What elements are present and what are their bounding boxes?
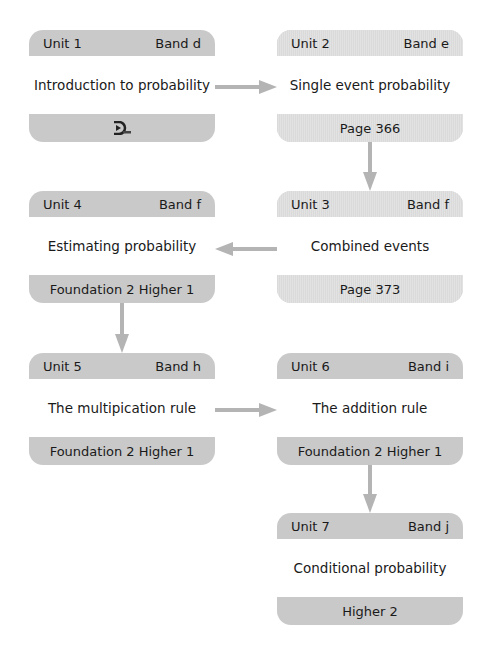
card-footer: Foundation 2 Higher 1: [277, 437, 463, 465]
card-header: Unit 1Band d: [29, 30, 215, 56]
arrow-right-icon: [215, 80, 277, 94]
dl-logo-icon: [112, 121, 132, 135]
card-header: Unit 5Band h: [29, 353, 215, 379]
card-header: Unit 6Band i: [277, 353, 463, 379]
unit-label: Unit 4: [43, 197, 82, 212]
unit-label: Unit 7: [291, 519, 330, 534]
unit-title: Introduction to probability: [29, 56, 215, 114]
band-label: Band i: [408, 359, 449, 374]
arrow-left-icon: [215, 242, 277, 256]
unit-title: Combined events: [277, 217, 463, 275]
arrow-down-icon: [363, 142, 377, 191]
band-label: Band d: [155, 36, 201, 51]
unit-label: Unit 3: [291, 197, 330, 212]
card-header: Unit 2Band e: [277, 30, 463, 56]
unit-title: Single event probability: [277, 56, 463, 114]
unit-label: Unit 5: [43, 359, 82, 374]
card-header: Unit 7Band j: [277, 513, 463, 539]
card-footer: Foundation 2 Higher 1: [29, 275, 215, 303]
card-header: Unit 4Band f: [29, 191, 215, 217]
card-footer: Higher 2: [277, 597, 463, 625]
unit-label: Unit 1: [43, 36, 82, 51]
band-label: Band f: [159, 197, 201, 212]
unit-card-1[interactable]: Unit 1Band d Introduction to probability: [29, 30, 215, 142]
unit-card-3[interactable]: Unit 3Band f Combined events Page 373: [277, 191, 463, 303]
card-footer: Page 366: [277, 114, 463, 142]
unit-title: The addition rule: [277, 379, 463, 437]
band-label: Band f: [407, 197, 449, 212]
unit-label: Unit 2: [291, 36, 330, 51]
band-label: Band e: [403, 36, 449, 51]
card-footer: [29, 114, 215, 142]
arrow-down-icon: [363, 465, 377, 513]
unit-card-5[interactable]: Unit 5Band h The multipication rule Foun…: [29, 353, 215, 465]
arrow-down-icon: [115, 303, 129, 353]
unit-card-6[interactable]: Unit 6Band i The addition rule Foundatio…: [277, 353, 463, 465]
card-header: Unit 3Band f: [277, 191, 463, 217]
unit-card-2[interactable]: Unit 2Band e Single event probability Pa…: [277, 30, 463, 142]
band-label: Band h: [155, 359, 201, 374]
arrow-right-icon: [215, 403, 277, 417]
unit-title: Conditional probability: [277, 539, 463, 597]
band-label: Band j: [408, 519, 449, 534]
unit-card-4[interactable]: Unit 4Band f Estimating probability Foun…: [29, 191, 215, 303]
unit-title: Estimating probability: [29, 217, 215, 275]
card-footer: Page 373: [277, 275, 463, 303]
unit-title: The multipication rule: [29, 379, 215, 437]
unit-label: Unit 6: [291, 359, 330, 374]
unit-card-7[interactable]: Unit 7Band j Conditional probability Hig…: [277, 513, 463, 625]
card-footer: Foundation 2 Higher 1: [29, 437, 215, 465]
